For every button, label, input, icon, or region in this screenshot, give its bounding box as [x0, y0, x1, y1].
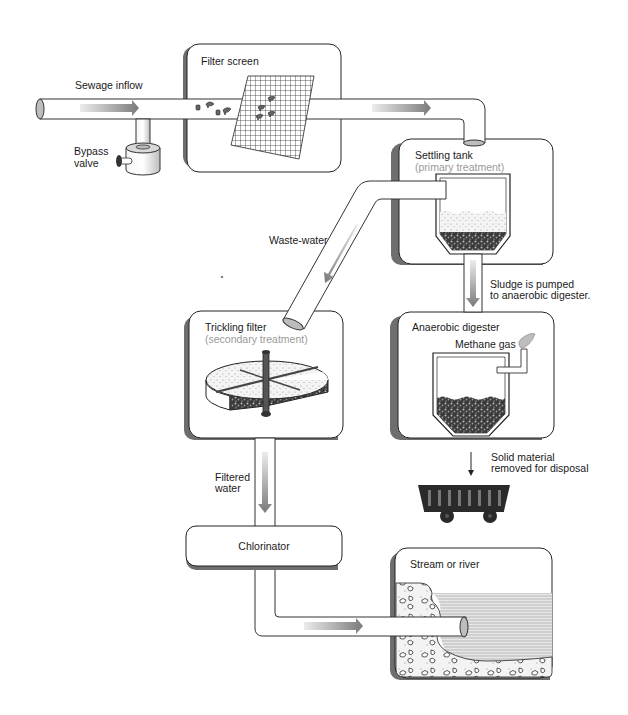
stray-dot	[221, 276, 224, 279]
settling-tank-subtitle: (primary treatment)	[415, 161, 504, 173]
sewage-inflow-label: Sewage inflow	[75, 79, 143, 91]
disposal-cart-icon	[418, 485, 510, 523]
central-column	[263, 352, 269, 414]
settling-tank-label: Settling tank	[415, 149, 474, 161]
filtered-water-label-line2: water	[214, 482, 241, 494]
settling-tank-vessel	[436, 174, 510, 254]
methane-gas-label: Methane gas	[455, 338, 516, 350]
settling-tank-panel: Settling tank (primary treatment)	[391, 139, 553, 265]
water-layer	[440, 211, 506, 235]
trickling-filter-subtitle: (secondary treatment)	[205, 333, 308, 345]
chlorinator-label: Chlorinator	[238, 540, 290, 552]
trickling-filter-panel: Trickling filter (secondary treatment)	[184, 311, 343, 440]
sewage-treatment-diagram: Filter screen Settling tank (primary tre…	[0, 0, 628, 715]
stream-or-river-panel: Stream or river	[390, 548, 552, 680]
anaerobic-digester-panel: Anaerobic digester Methane gas	[390, 312, 554, 440]
solid-material-label-line2: removed for disposal	[491, 462, 588, 474]
valve-handle-icon[interactable]	[116, 155, 122, 167]
bypass-valve-label-line1: Bypass	[74, 145, 108, 157]
sludge-label-line2: to anaerobic digester.	[490, 289, 590, 301]
trickling-filter-label: Trickling filter	[205, 321, 267, 333]
arrow-solid-removal	[468, 452, 474, 476]
bypass-valve-label-line2: valve	[74, 157, 99, 169]
anaerobic-digester-label: Anaerobic digester	[412, 321, 500, 333]
filter-screen-label: Filter screen	[201, 55, 259, 67]
chlorinator-box: Chlorinator	[186, 526, 342, 570]
stream-or-river-label: Stream or river	[410, 558, 480, 570]
waste-water-label: Waste-water	[269, 234, 328, 246]
bypass-valve	[116, 119, 160, 175]
